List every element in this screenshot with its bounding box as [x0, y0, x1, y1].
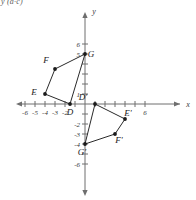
vertex-label-E-prime: E' — [123, 108, 132, 118]
corner-note-text: y (a·c) — [1, 0, 23, 6]
x-axis-label: x — [185, 100, 190, 109]
y-axis-arrow — [82, 12, 87, 18]
x-tick-label: -4 — [42, 109, 48, 117]
y-tick-label: -6 — [74, 161, 80, 169]
x-tick-label: -5 — [32, 109, 38, 117]
y-tick-label: -3 — [74, 131, 80, 139]
vertex-label-G: G — [88, 49, 95, 59]
vertex-label-F-prime: F' — [114, 135, 123, 145]
vertex-label-F: F — [42, 55, 49, 65]
vertex-point-E — [43, 92, 47, 96]
x-axis-arrow — [174, 101, 180, 106]
vertex-label-E: E — [30, 87, 37, 97]
vertex-point-F — [53, 67, 57, 71]
y-tick-label: -2 — [74, 121, 80, 129]
vertex-point-D — [68, 102, 72, 106]
y-axis-label: y — [91, 7, 96, 16]
vertex-label-D: D — [66, 107, 74, 117]
y-tick-label: 6 — [77, 41, 81, 49]
vertex-point-D-prime — [93, 102, 97, 106]
vertex-label-D-prime: D' — [78, 92, 88, 102]
axis-labels-group: xy — [91, 7, 190, 109]
cartesian-plot: -6-5-4-3-26651-2-3-4-6 DEFGD'E'F'G' xy — [0, 0, 196, 200]
y-axis-arrow-negative — [82, 190, 87, 196]
x-tick-label: -6 — [22, 109, 28, 117]
coordinate-plane-figure: y (a·c) -6-5-4-3-26651-2-3-4-6 DEFGD'E'F… — [0, 0, 196, 200]
x-axis-arrow-negative — [16, 101, 22, 106]
vertex-label-G-prime: G' — [78, 147, 87, 157]
vertex-point-G — [83, 52, 87, 56]
vertex-point-G-prime — [83, 142, 87, 146]
x-tick-label: 6 — [143, 109, 147, 117]
axes-group — [16, 12, 180, 196]
x-tick-label: -3 — [52, 109, 58, 117]
